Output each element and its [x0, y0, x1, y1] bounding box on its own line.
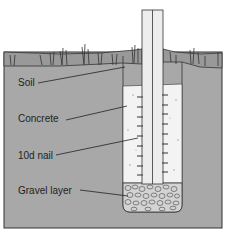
label-gravel: Gravel layer — [18, 185, 72, 197]
soil-region — [4, 52, 222, 228]
label-concrete: Concrete — [18, 113, 59, 125]
label-soil: Soil — [18, 77, 35, 89]
label-nail: 10d nail — [18, 150, 53, 162]
